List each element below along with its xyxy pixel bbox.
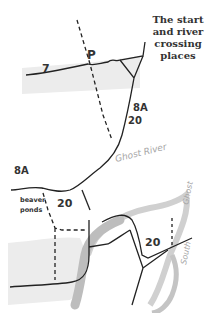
trail-7-label: 7 — [42, 62, 50, 75]
ghost-river-channel — [75, 220, 120, 305]
title-line-1: The start — [148, 14, 208, 26]
title-line-2: and river — [148, 26, 208, 38]
beaver-ponds-label-1: beaver — [20, 196, 46, 204]
ghost-label: Ghost — [181, 180, 195, 206]
south-label: South — [179, 241, 193, 266]
parking-label: P — [87, 48, 96, 62]
trail-20-upper-label: 20 — [128, 115, 142, 126]
trail-20-ponds-label: 20 — [57, 197, 73, 210]
trail-20-lower-label: 20 — [145, 236, 161, 249]
trail-8a-upper-label: 8A — [133, 102, 148, 113]
map-title: The start and river crossing places — [148, 14, 208, 62]
trail-8a-branch — [82, 190, 90, 210]
ghost-river-label: Ghost River — [114, 141, 169, 164]
beaver-ponds-label-2: ponds — [20, 206, 42, 214]
trail-8a-left-label: 8A — [14, 165, 29, 176]
upper-flats-shading — [22, 56, 140, 94]
title-line-3: crossing — [148, 38, 208, 50]
title-line-4: places — [148, 50, 208, 62]
